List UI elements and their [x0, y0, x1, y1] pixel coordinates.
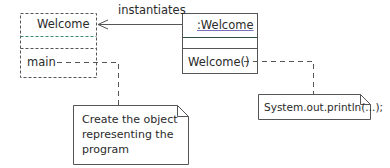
object-operation-constructor: Welcome(): [188, 55, 250, 69]
note-ctor-line-1: System.out.println(...);: [264, 100, 383, 115]
main-note-connector: [57, 63, 119, 106]
class-operation-main: main: [27, 55, 56, 69]
note-main-line-2: representing the: [82, 127, 178, 142]
instantiates-arrow: [98, 20, 182, 29]
object-name: :Welcome: [197, 18, 253, 32]
ctor-note-connector: [244, 62, 314, 95]
association-label: instantiates: [118, 3, 186, 17]
note-ctor-text: System.out.println(...);: [264, 100, 383, 115]
note-main-text: Create the object representing the progr…: [82, 112, 178, 157]
class-name: Welcome: [37, 17, 90, 31]
note-main-line-3: program: [82, 142, 178, 157]
note-main-line-1: Create the object: [82, 112, 178, 127]
